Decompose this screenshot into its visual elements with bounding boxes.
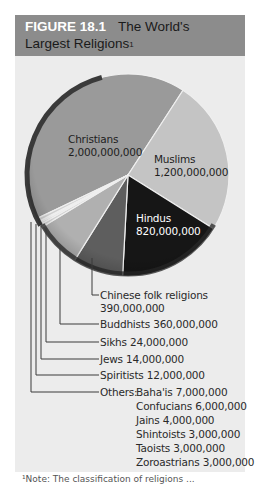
callout-others-2: Jains 4,000,000 (136, 414, 214, 427)
label-muslims: Muslims 1,200,000,000 (154, 153, 228, 179)
label-christians: Christians 2,000,000,000 (68, 133, 142, 159)
muslims-name: Muslims (154, 153, 228, 166)
callout-others-prefix: Others: (100, 386, 137, 399)
callout-others-3: Shintoists 3,000,000 (136, 428, 240, 441)
muslims-value: 1,200,000,000 (154, 166, 228, 179)
callout-chinese-value: 390,000,000 (100, 302, 165, 315)
hindus-name: Hindus (136, 212, 201, 225)
callout-buddhists: Buddhists 360,000,000 (100, 318, 218, 331)
callout-others-5: Zoroastrians 3,000,000 (136, 456, 254, 469)
footnote: ¹Note: The classification of religions .… (22, 474, 195, 484)
callout-sikhs: Sikhs 24,000,000 (100, 336, 188, 349)
christians-value: 2,000,000,000 (68, 146, 142, 159)
callout-others-0: Baha'is 7,000,000 (136, 386, 227, 399)
christians-name: Christians (68, 133, 142, 146)
callout-others-1: Confucians 6,000,000 (136, 400, 247, 413)
callout-chinese-name: Chinese folk religions (100, 289, 208, 302)
hindus-value: 820,000,000 (136, 225, 201, 238)
callout-spiritists: Spiritists 12,000,000 (100, 369, 205, 382)
callout-others-4: Taoists 3,000,000 (136, 442, 225, 455)
callout-jews: Jews 14,000,000 (100, 353, 184, 366)
label-hindus: Hindus 820,000,000 (136, 212, 201, 238)
